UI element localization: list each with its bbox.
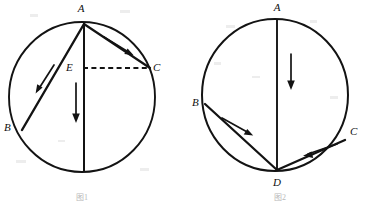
right-arrow-vertical-down [287,54,295,90]
right-chord-BD [205,104,277,170]
right-figure-caption: 图2 [274,193,286,201]
right-label-A: A [273,1,281,13]
geometry-figure-canvas: A B C E 图1 [0,0,369,201]
right-label-C: C [350,125,358,137]
figure-sheet: A B C E 图1 [0,0,369,201]
left-figure-caption: 图1 [76,193,88,201]
left-arrow-vertical-down [72,83,80,123]
left-label-A: A [77,2,85,14]
right-label-D: D [272,176,281,188]
paper-noise [16,10,338,171]
left-circle-outline [9,22,155,172]
right-circle-diagram: A B C D 图2 [192,1,358,201]
left-label-B: B [4,121,11,133]
left-label-E: E [65,61,73,73]
left-label-C: C [153,61,161,73]
left-circle-diagram: A B C E 图1 [4,2,161,201]
right-label-B: B [192,96,199,108]
